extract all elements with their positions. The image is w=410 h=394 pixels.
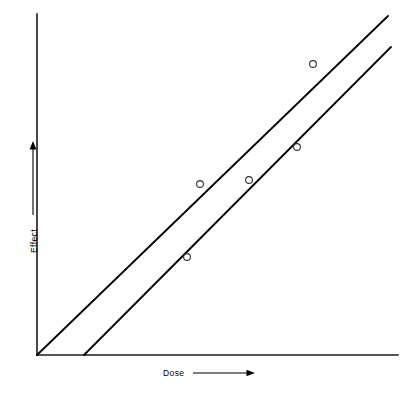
data-point-marker bbox=[184, 254, 191, 261]
data-point-marker bbox=[294, 144, 301, 151]
data-point-marker bbox=[310, 61, 317, 68]
plot-canvas: Effect Dose bbox=[0, 0, 410, 394]
regression-line-through-origin bbox=[37, 16, 388, 355]
dose-effect-figure: Effect Dose bbox=[0, 0, 410, 394]
y-axis-label: Effect bbox=[29, 229, 39, 253]
up-arrow-icon bbox=[30, 141, 37, 215]
x-axis-label: Dose bbox=[163, 368, 184, 378]
data-point-marker bbox=[246, 177, 253, 184]
data-point-marker bbox=[197, 181, 204, 188]
regression-line-with-intercept bbox=[84, 47, 391, 355]
right-arrow-icon bbox=[193, 370, 255, 377]
